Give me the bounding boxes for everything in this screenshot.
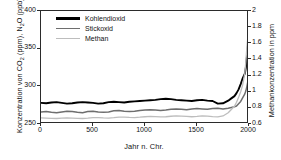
x-tick-label-2000: 2000 — [231, 126, 265, 133]
legend-label-stickoxid: Stickoxid — [85, 24, 113, 33]
y-left-tick-mark-350 — [37, 48, 40, 49]
y-right-tick-mark-1.8 — [248, 26, 251, 27]
y-right-tick-mark-1.2 — [248, 75, 251, 76]
y-left-tick-label-400: 400 — [6, 6, 36, 13]
y-right-tick-mark-1.4 — [248, 58, 251, 59]
series-line-stickoxid — [41, 76, 248, 113]
chart-legend: Kohlendioxid Stickoxid Methan — [56, 14, 125, 44]
legend-label-kohlendioxid: Kohlendioxid — [85, 14, 125, 23]
legend-item-methan: Methan — [56, 34, 125, 43]
legend-swatch-methan — [56, 38, 80, 39]
y-left-tick-mark-400 — [37, 10, 40, 11]
legend-item-kohlendioxid: Kohlendioxid — [56, 14, 125, 23]
y-right-tick-label-0.6: 0.6 — [252, 119, 278, 126]
y-right-tick-label-1.4: 1.4 — [252, 54, 278, 61]
legend-label-methan: Methan — [85, 34, 108, 43]
y-right-tick-label-1.6: 1.6 — [252, 38, 278, 45]
x-tick-label-1500: 1500 — [179, 126, 213, 133]
y-left-title-sub-co2: 2 — [19, 57, 25, 60]
legend-swatch-stickoxid — [56, 28, 80, 30]
x-axis-title: Jahr n. Chr. — [40, 142, 248, 151]
y-right-tick-label-1: 1 — [252, 86, 278, 93]
y-left-tick-label-300: 300 — [6, 81, 36, 88]
y-axis-left-title: Konzentration von CO2 (ppm), N2O (ppb) — [15, 9, 25, 133]
greenhouse-gas-concentration-chart: Kohlendioxid Stickoxid Methan Konzentrat… — [0, 0, 281, 160]
y-left-tick-label-250: 250 — [6, 119, 36, 126]
y-left-tick-mark-300 — [37, 85, 40, 86]
x-tick-label-0: 0 — [23, 126, 57, 133]
y-left-title-part2: (ppm), N — [15, 26, 24, 57]
series-line-kohlendioxid — [41, 34, 248, 103]
legend-swatch-kohlendioxid — [56, 17, 80, 20]
y-right-tick-mark-1 — [248, 91, 251, 92]
y-left-title-sub-n2o: 2 — [19, 23, 25, 26]
x-tick-label-500: 500 — [75, 126, 109, 133]
y-right-tick-mark-2 — [248, 10, 251, 11]
y-right-tick-label-1.8: 1.8 — [252, 22, 278, 29]
y-left-tick-label-350: 350 — [6, 43, 36, 50]
y-right-tick-label-1.2: 1.2 — [252, 70, 278, 77]
y-right-tick-mark-1.6 — [248, 42, 251, 43]
y-right-tick-label-0.8: 0.8 — [252, 102, 278, 109]
x-tick-label-1000: 1000 — [127, 126, 161, 133]
legend-item-stickoxid: Stickoxid — [56, 24, 125, 33]
y-right-tick-label-2: 2 — [252, 6, 278, 13]
y-right-tick-mark-0.8 — [248, 107, 251, 108]
